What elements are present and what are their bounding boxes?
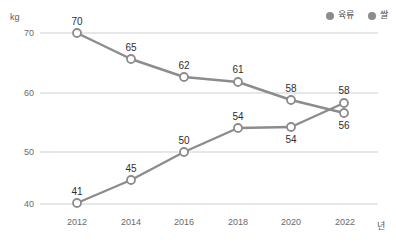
data-point-meat-2016[interactable] [180,73,188,81]
gridlines [40,33,378,204]
data-point-rice-2018[interactable] [234,124,242,132]
data-label-rice-2016: 50 [169,135,199,146]
data-point-meat-2020[interactable] [287,96,295,104]
data-label-rice-2014: 45 [116,163,146,174]
line-chart: kg 년 육류 쌀 70 60 50 40 2012 2014 2016 201… [0,0,396,243]
data-label-rice-2020: 54 [276,134,306,145]
data-point-rice-2012[interactable] [73,199,81,207]
data-point-rice-2022[interactable] [340,99,348,107]
data-point-meat-2022[interactable] [340,109,348,117]
data-point-rice-2014[interactable] [127,176,135,184]
data-point-rice-2016[interactable] [180,148,188,156]
rice-polyline [77,103,344,203]
data-point-meat-2012[interactable] [73,29,81,37]
data-label-meat-2018: 61 [223,64,253,75]
data-label-meat-2022: 56 [329,120,359,131]
data-label-rice-2018: 54 [223,111,253,122]
data-label-meat-2016: 62 [169,60,199,71]
data-point-meat-2018[interactable] [234,78,242,86]
data-point-meat-2014[interactable] [127,55,135,63]
data-label-rice-2012: 41 [62,186,92,197]
data-point-rice-2020[interactable] [287,123,295,131]
data-label-meat-2014: 65 [116,42,146,53]
data-label-rice-2022: 58 [329,85,359,96]
data-label-meat-2020: 58 [276,83,306,94]
series-markers-rice [73,99,348,207]
series-line-rice [77,103,344,203]
data-label-meat-2012: 70 [62,16,92,27]
